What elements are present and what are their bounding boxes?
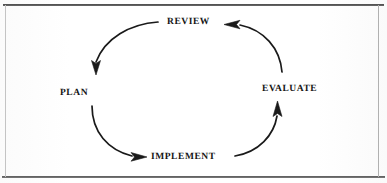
diagram-page: REVIEW EVALUATE IMPLEMENT PLAN [0,0,387,183]
arrow-review-to-plan [92,22,159,75]
node-label-evaluate: EVALUATE [262,84,317,95]
arrow-evaluate-to-review [224,20,282,72]
arc-bottom-left [92,106,132,156]
arrowhead-right-icon [131,153,147,162]
node-label-implement: IMPLEMENT [151,152,216,163]
node-label-review: REVIEW [167,17,210,28]
arrow-plan-to-implement [92,106,147,161]
arrowhead-left-icon [224,20,240,29]
arc-top-right [240,25,282,72]
arrowhead-up-icon [273,101,282,117]
arrow-implement-to-evaluate [235,101,282,156]
node-label-plan: PLAN [60,88,88,99]
arc-bottom-right [235,116,277,156]
arc-top-left [96,22,158,62]
